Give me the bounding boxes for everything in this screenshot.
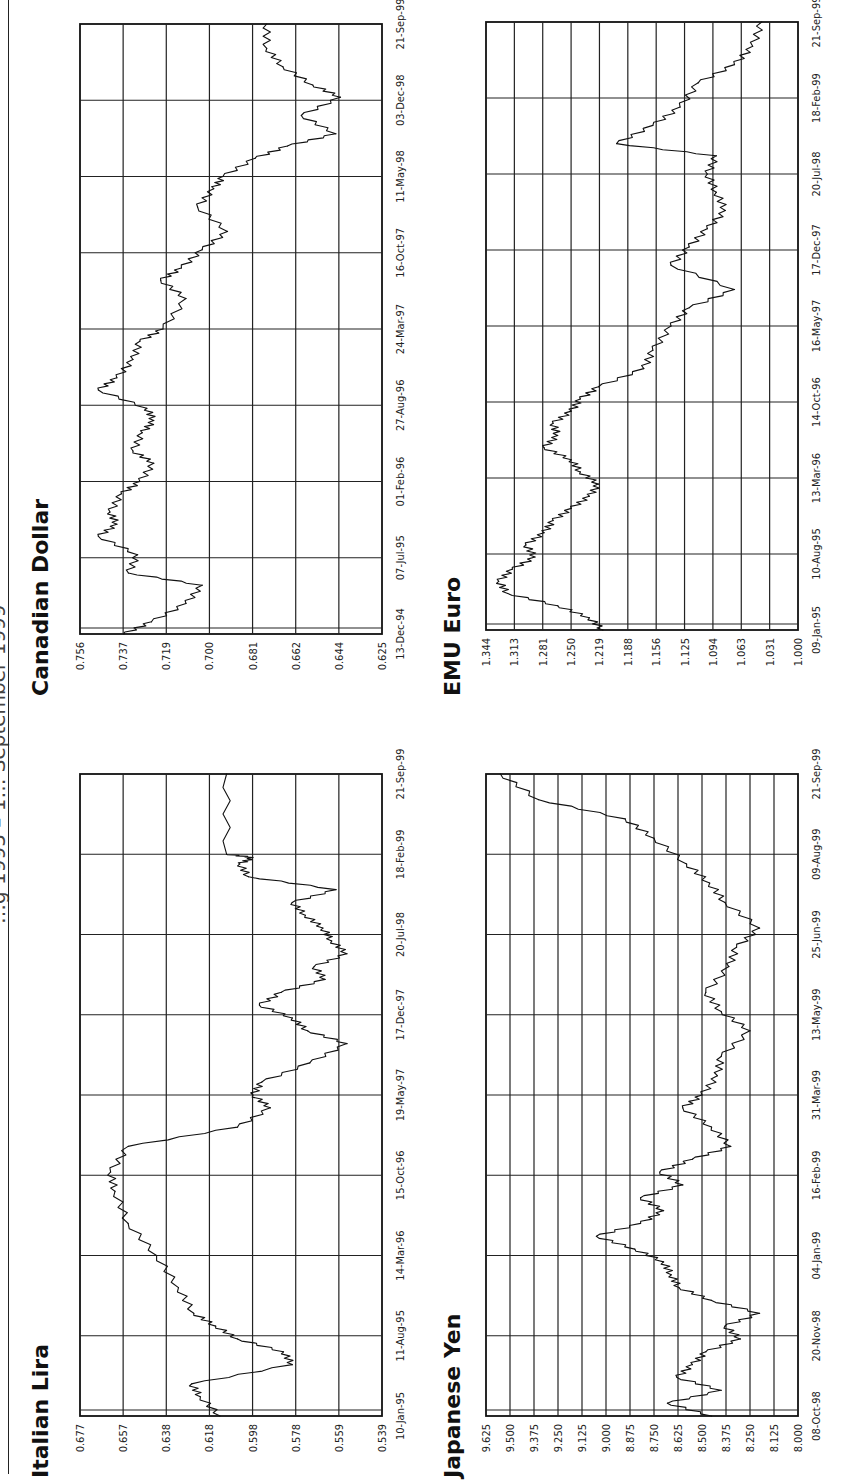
data-point [498, 581, 499, 582]
data-point [248, 876, 249, 877]
x-tick-label: 31-Mar-99 [810, 1070, 823, 1120]
data-point [580, 398, 581, 399]
data-point [98, 536, 99, 537]
chart-svg: 1.3441.3131.2811.2501.2191.1881.1561.125… [466, 0, 846, 704]
y-tick-label: 0.638 [160, 1424, 173, 1452]
y-tick-label: 0.578 [290, 1424, 303, 1452]
data-point [252, 857, 253, 858]
y-tick-label: 1.219 [593, 638, 606, 666]
data-point [538, 799, 539, 800]
data-point [580, 471, 581, 472]
y-tick-label: 0.539 [376, 1424, 389, 1452]
data-point [598, 386, 599, 387]
data-point [128, 1146, 129, 1147]
data-point [652, 350, 653, 351]
data-point [292, 902, 293, 903]
chart-panel-emu-euro: EMU Euro 1.3441.3131.2811.2501.2191.1881… [440, 0, 849, 704]
data-point [331, 940, 332, 941]
data-point [682, 1184, 683, 1185]
x-tick-label: 18-Feb-99 [810, 73, 823, 123]
data-point [721, 1390, 722, 1391]
data-point [671, 1274, 672, 1275]
data-point [571, 411, 572, 412]
data-point [728, 966, 729, 967]
y-tick-label: 1.125 [679, 638, 692, 666]
data-point [128, 572, 129, 573]
chart-title: Japanese Yen [440, 1314, 465, 1478]
data-point [226, 773, 227, 774]
data-point [589, 496, 590, 497]
x-tick-label: 24-Mar-97 [394, 304, 407, 354]
data-point [640, 1223, 641, 1224]
chart-svg: 9.6259.5009.3759.2509.1259.0008.8758.750… [466, 744, 846, 1484]
data-point [557, 605, 558, 606]
x-tick-label: 13-Dec-94 [394, 608, 407, 659]
data-point [507, 593, 508, 594]
x-tick-label: 17-Dec-97 [394, 989, 407, 1040]
x-tick-label: 04-Jan-99 [810, 1231, 823, 1279]
chart-title: EMU Euro [440, 577, 465, 696]
data-point [634, 1248, 635, 1249]
data-point [346, 1043, 347, 1044]
data-point [116, 524, 117, 525]
data-point [132, 359, 133, 360]
data-point [305, 915, 306, 916]
data-point [709, 883, 710, 884]
data-point [663, 1261, 664, 1262]
data-point [200, 1396, 201, 1397]
data-point [643, 368, 644, 369]
x-tick-label: 25-Jun-99 [810, 910, 823, 958]
x-tick-label: 16-Oct-97 [394, 228, 407, 278]
document-page: …g 1995 – 1… September 1999 Italian Lira… [0, 0, 849, 1484]
y-tick-label: 1.188 [622, 638, 635, 666]
data-point [679, 107, 680, 108]
y-tick-label: 8.250 [744, 1424, 757, 1452]
y-tick-label: 0.559 [333, 1424, 346, 1452]
y-tick-label: 0.756 [74, 642, 87, 670]
data-point [197, 206, 198, 207]
data-point [110, 1171, 111, 1172]
data-point [312, 84, 313, 85]
x-tick-label: 08-Oct-98 [810, 1391, 823, 1441]
data-point [239, 863, 240, 864]
data-point [202, 585, 203, 586]
data-point [219, 1415, 220, 1416]
x-tick-label: 16-May-97 [810, 300, 823, 353]
y-tick-label: 0.677 [74, 1424, 87, 1452]
data-point [667, 1403, 668, 1404]
data-point [137, 554, 138, 555]
data-point [123, 633, 124, 634]
data-point [266, 48, 267, 49]
y-tick-label: 8.750 [648, 1424, 661, 1452]
data-point [707, 228, 708, 229]
data-point [121, 493, 122, 494]
data-point [222, 176, 223, 177]
data-point [160, 280, 161, 281]
data-point [307, 1030, 308, 1031]
data-point [734, 64, 735, 65]
x-tick-label: 15-Oct-96 [394, 1150, 407, 1200]
x-tick-label: 20-Nov-98 [810, 1310, 823, 1361]
x-tick-label: 01-Feb-96 [394, 457, 407, 507]
data-point [181, 267, 182, 268]
data-point [340, 97, 341, 98]
y-tick-label: 9.125 [576, 1424, 589, 1452]
data-point [252, 1094, 253, 1095]
data-point [711, 1127, 712, 1128]
data-point [146, 408, 147, 409]
data-point [598, 483, 599, 484]
data-point [109, 511, 110, 512]
y-tick-label: 0.737 [117, 642, 130, 670]
x-tick-label: 11-Aug-95 [394, 1310, 407, 1361]
y-tick-label: 9.250 [552, 1424, 565, 1452]
data-point [191, 1383, 192, 1384]
y-tick-label: 0.618 [203, 1424, 216, 1452]
y-tick-label: 0.625 [376, 642, 389, 670]
data-point [335, 133, 336, 134]
data-point [670, 265, 671, 266]
x-tick-label: 17-Dec-97 [810, 224, 823, 275]
data-point [512, 569, 513, 570]
y-tick-label: 8.500 [696, 1424, 709, 1452]
data-point [717, 1075, 718, 1076]
data-point [689, 246, 690, 247]
